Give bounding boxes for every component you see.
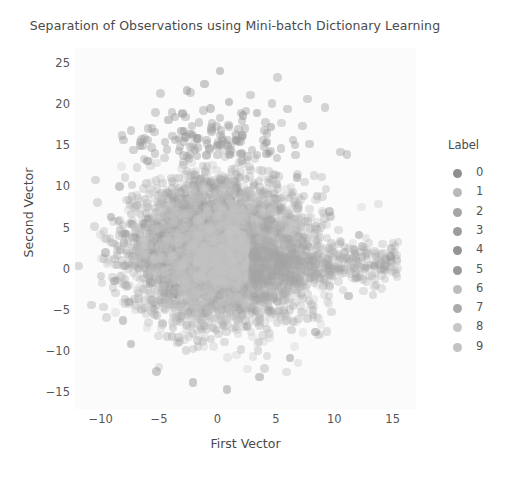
scatter-point [292, 266, 301, 275]
legend-item-8[interactable]: 8 [440, 320, 520, 339]
scatter-point [264, 235, 273, 244]
scatter-point [203, 263, 212, 272]
scatter-point [281, 243, 290, 252]
scatter-point [190, 195, 199, 204]
scatter-point [164, 244, 173, 253]
scatter-point [162, 186, 171, 195]
scatter-point [199, 224, 208, 233]
legend-item-0[interactable]: 0 [440, 166, 520, 185]
scatter-point [242, 194, 251, 203]
scatter-point [249, 270, 258, 279]
scatter-point [206, 277, 215, 286]
scatter-point [191, 250, 200, 259]
scatter-point [232, 285, 241, 294]
scatter-point [203, 268, 212, 277]
scatter-point [208, 233, 217, 242]
scatter-point [232, 310, 241, 319]
scatter-point [221, 264, 230, 273]
legend-item-2[interactable]: 2 [440, 205, 520, 224]
scatter-point [235, 204, 244, 213]
scatter-point [168, 108, 177, 117]
scatter-point [319, 209, 328, 218]
scatter-point [225, 212, 234, 221]
scatter-point [267, 216, 276, 225]
scatter-point [216, 213, 225, 222]
scatter-point [148, 187, 157, 196]
scatter-point [359, 287, 368, 296]
scatter-point [226, 236, 235, 245]
scatter-point [177, 222, 186, 231]
legend-item-3[interactable]: 3 [440, 224, 520, 243]
scatter-point [226, 253, 235, 262]
scatter-point [267, 123, 276, 132]
scatter-point [221, 297, 230, 306]
scatter-point [187, 279, 196, 288]
scatter-point [282, 211, 291, 220]
scatter-point [200, 218, 209, 227]
scatter-point [264, 280, 273, 289]
scatter-point [225, 275, 234, 284]
scatter-point [191, 238, 200, 247]
scatter-point [170, 203, 179, 212]
scatter-point [132, 256, 141, 265]
scatter-point [286, 245, 295, 254]
scatter-point [231, 226, 240, 235]
legend-item-7[interactable]: 7 [440, 301, 520, 320]
scatter-point [273, 277, 282, 286]
scatter-point [225, 230, 234, 239]
scatter-point [188, 240, 197, 249]
scatter-point [165, 289, 174, 298]
scatter-point [155, 363, 164, 372]
scatter-point [225, 253, 234, 262]
scatter-point [162, 216, 171, 225]
scatter-point [258, 245, 267, 254]
scatter-point [220, 222, 229, 231]
legend-item-4[interactable]: 4 [440, 243, 520, 262]
scatter-point [246, 234, 255, 243]
scatter-point [170, 206, 179, 215]
scatter-point [187, 261, 196, 270]
scatter-point [133, 251, 142, 260]
scatter-point [249, 272, 258, 281]
legend-item-1[interactable]: 1 [440, 185, 520, 204]
scatter-point [231, 264, 240, 273]
scatter-point [189, 251, 198, 260]
legend-item-6[interactable]: 6 [440, 282, 520, 301]
scatter-point [204, 229, 213, 238]
scatter-point [265, 241, 274, 250]
scatter-point [224, 264, 233, 273]
scatter-point [249, 289, 258, 298]
scatter-point [255, 307, 264, 316]
scatter-point [174, 200, 183, 209]
legend-item-9[interactable]: 9 [440, 340, 520, 359]
scatter-point [306, 243, 315, 252]
scatter-point [141, 251, 150, 260]
scatter-point [170, 250, 179, 259]
scatter-point [188, 260, 197, 269]
scatter-point [274, 247, 283, 256]
scatter-point [218, 250, 227, 259]
scatter-point [306, 224, 315, 233]
scatter-point [134, 289, 143, 298]
scatter-point [299, 278, 308, 287]
scatter-point [206, 227, 215, 236]
legend-item-5[interactable]: 5 [440, 263, 520, 282]
scatter-point [241, 273, 250, 282]
scatter-point [248, 243, 257, 252]
scatter-point [290, 272, 299, 281]
scatter-point [236, 306, 245, 315]
scatter-point [249, 265, 258, 274]
scatter-point [227, 282, 236, 291]
scatter-point [272, 251, 281, 260]
scatter-point [239, 282, 248, 291]
scatter-point [235, 255, 244, 264]
scatter-point [210, 260, 219, 269]
scatter-point [235, 261, 244, 270]
scatter-point [191, 272, 200, 281]
scatter-point [250, 213, 259, 222]
scatter-point [207, 248, 216, 257]
scatter-point [269, 189, 278, 198]
scatter-point [277, 236, 286, 245]
scatter-point [256, 303, 265, 312]
scatter-point [132, 223, 141, 232]
